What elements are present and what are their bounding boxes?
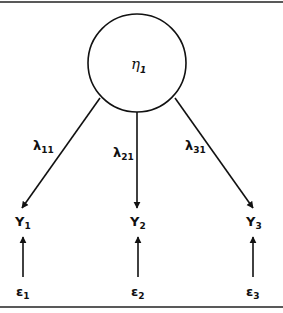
- loading-arrow-3: [175, 98, 253, 208]
- latent-label: η1: [131, 55, 146, 75]
- latent-factor-node: η1: [88, 14, 186, 112]
- indicator-label-1: Y1: [14, 214, 31, 231]
- indicator-label-3: Y3: [245, 214, 262, 231]
- error-label-1: ε1: [16, 284, 30, 301]
- loading-label-1: λ11: [33, 138, 54, 155]
- path-diagram: η1 λ11 λ21 λ31 Y1 Y2 Y3 ε1 ε2 ε3: [0, 0, 283, 313]
- loading-arrow-1: [22, 98, 100, 208]
- indicator-label-2: Y2: [129, 214, 146, 231]
- loading-label-3: λ31: [185, 138, 206, 155]
- error-label-2: ε2: [131, 284, 145, 301]
- loading-label-2: λ21: [113, 145, 134, 162]
- error-label-3: ε3: [246, 284, 260, 301]
